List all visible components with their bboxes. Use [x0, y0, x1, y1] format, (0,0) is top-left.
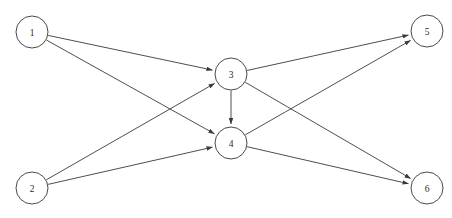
edge-layer [46, 35, 410, 184]
edge-1-to-3 [48, 35, 212, 70]
node-label-2: 2 [30, 184, 35, 194]
node-layer: 123456 [16, 15, 443, 204]
node-label-1: 1 [30, 28, 35, 38]
graph-canvas: 123456 [0, 0, 452, 218]
node-label-4: 4 [229, 139, 234, 149]
edge-3-to-6 [245, 82, 410, 178]
node-4[interactable]: 4 [215, 127, 247, 159]
node-2[interactable]: 2 [16, 172, 48, 204]
edge-3-to-5 [247, 35, 408, 70]
node-label-5: 5 [425, 27, 430, 37]
edge-4-to-6 [247, 147, 408, 184]
edge-1-to-4 [46, 40, 214, 134]
graph-diagram: 123456 [0, 0, 452, 218]
node-6[interactable]: 6 [411, 172, 443, 204]
node-5[interactable]: 5 [411, 15, 443, 47]
edge-2-to-4 [48, 147, 212, 184]
node-label-3: 3 [229, 70, 234, 80]
node-1[interactable]: 1 [16, 16, 48, 48]
node-label-6: 6 [425, 184, 430, 194]
node-3[interactable]: 3 [215, 58, 247, 90]
edge-4-to-5 [245, 40, 410, 134]
